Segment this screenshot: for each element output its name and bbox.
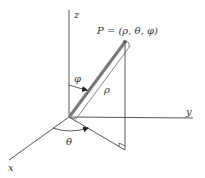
point-p: [123, 40, 127, 44]
x-axis: [9, 117, 69, 160]
rho-label: ρ: [103, 84, 110, 95]
theta-arc: [53, 128, 88, 131]
rho-base-end: [70, 118, 76, 119]
y-axis-label: y: [185, 106, 192, 117]
xy-projection-line: [69, 117, 125, 150]
phi-label: φ: [74, 73, 81, 84]
right-angle-marker: [119, 143, 125, 147]
x-axis-label: x: [8, 162, 14, 173]
z-axis-label: z: [73, 9, 80, 20]
point-p-label: P = (ρ, θ, φ): [96, 25, 158, 36]
theta-label: θ: [66, 136, 72, 147]
rho-dimension-line: [76, 46, 130, 119]
phi-arc: [69, 85, 87, 90]
spherical-coordinates-diagram: z y x P = (ρ, θ, φ) φ ρ θ: [0, 0, 205, 178]
y-axis: [69, 117, 193, 118]
